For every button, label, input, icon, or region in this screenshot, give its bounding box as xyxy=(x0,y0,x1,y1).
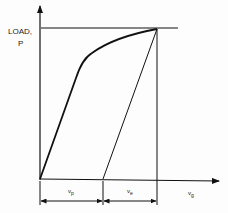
vg-label: vg xyxy=(188,190,194,198)
y-axis-label: LOAD, xyxy=(8,27,32,36)
y-axis-label-symbol: P xyxy=(18,39,23,48)
load-displacement-diagram: LOAD, P vp ve vg xyxy=(0,0,228,213)
diagram-canvas: LOAD, P vp ve vg xyxy=(0,0,228,213)
ve-label: ve xyxy=(127,188,133,196)
vp-label: vp xyxy=(68,188,74,196)
x-axis xyxy=(40,179,219,181)
loading-curve xyxy=(40,29,157,179)
unloading-line xyxy=(103,29,157,179)
